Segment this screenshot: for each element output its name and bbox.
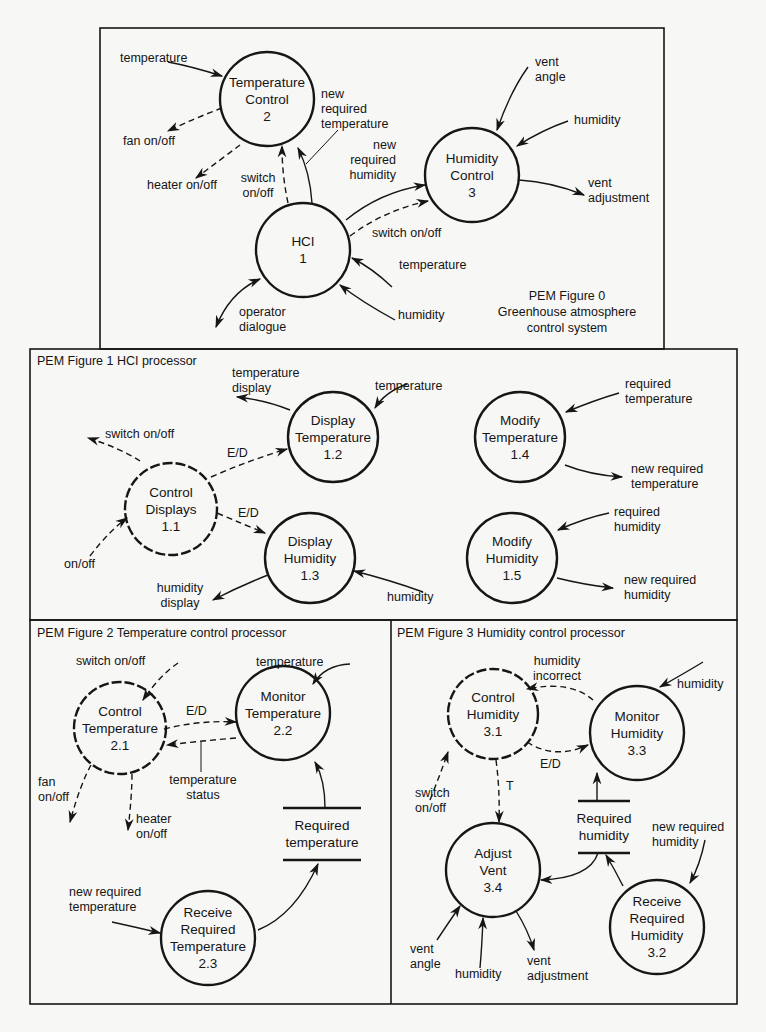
label-line: humidity [330, 168, 396, 183]
label-line: heater [136, 812, 171, 827]
node-name: Control [229, 91, 305, 108]
flow-label-vent-adjustment: vent adjustment [527, 954, 588, 984]
flow-label-new-required-temperature: new required temperature [321, 87, 388, 132]
node-display-temperature: Display Temperature 1.2 [295, 412, 371, 463]
label-line: on/off [241, 186, 276, 201]
flow-label-switch: switch on/off [105, 427, 174, 442]
node-name: Control [467, 689, 520, 706]
node-name: Monitor [611, 708, 664, 725]
label-line: required [625, 377, 692, 392]
label-line: new [330, 138, 396, 153]
node-control-humidity: Control Humidity 3.1 [467, 689, 520, 740]
node-number: 2 [229, 108, 305, 125]
flow-label-required-humidity: required humidity [614, 505, 661, 535]
label-line: on/off [38, 790, 69, 805]
node-name: Control [145, 484, 196, 501]
flow-label-ed-2: E/D [238, 506, 259, 521]
flow-label-humidity-hc: humidity [574, 113, 621, 128]
node-name: Temperature [229, 74, 305, 91]
label-line: angle [410, 957, 441, 972]
node-name: Temperature [295, 429, 371, 446]
flow-label-switch: switch on/off [415, 786, 450, 816]
figure-0-caption: PEM Figure 0 Greenhouse atmosphere contr… [498, 288, 636, 336]
flow-label-switch-hc: switch on/off [372, 226, 441, 241]
node-number: 1.5 [486, 567, 539, 584]
node-name: Humidity [611, 725, 664, 742]
node-name: Humidity [486, 550, 539, 567]
label-line: humidity [652, 835, 724, 850]
flow-label-temperature: temperature [256, 655, 323, 670]
flow-label-heater: heater on/off [147, 178, 217, 193]
node-name: Humidity [467, 706, 520, 723]
flow-label-vent-angle: vent angle [535, 55, 566, 85]
label-line: required [321, 102, 388, 117]
flow-label-switch-tc: switch on/off [241, 171, 276, 201]
node-receive-required-temperature: Receive Required Temperature 2.3 [170, 904, 246, 972]
node-modify-humidity: Modify Humidity 1.5 [486, 533, 539, 584]
node-number: 3.3 [611, 742, 664, 759]
flow-label-humidity: humidity [387, 590, 434, 605]
node-number: 1.2 [295, 446, 371, 463]
label-line: status [169, 788, 236, 803]
label-line: temperature [169, 773, 236, 788]
node-number: 3.1 [467, 723, 520, 740]
caption-line: Greenhouse atmosphere [498, 304, 636, 320]
label-line: humidity [614, 520, 661, 535]
node-control-displays: Control Displays 1.1 [145, 484, 196, 535]
node-name: Control [82, 703, 158, 720]
label-line: temperature [625, 392, 692, 407]
figure-2-title: PEM Figure 2 Temperature control process… [37, 626, 286, 640]
node-name: Temperature [82, 720, 158, 737]
node-name: Temperature [245, 705, 321, 722]
label-line: vent [535, 55, 566, 70]
label-line: temperature [69, 900, 141, 915]
label-line: angle [535, 70, 566, 85]
node-number: 2.2 [245, 722, 321, 739]
label-line: on/off [415, 801, 450, 816]
node-name: Humidity [630, 927, 685, 944]
node-control-temperature: Control Temperature 2.1 [82, 703, 158, 754]
node-adjust-vent: Adjust Vent 3.4 [474, 845, 512, 896]
label-line: display [157, 596, 204, 611]
label-line: vent [527, 954, 588, 969]
label-line: temperature [631, 477, 703, 492]
flow-label-ed: E/D [186, 704, 207, 719]
flow-label-switch: switch on/off [76, 654, 145, 669]
node-number: 3.2 [630, 944, 685, 961]
node-humidity-control: Humidity Control 3 [446, 150, 499, 201]
node-number: 3 [446, 184, 499, 201]
figure-1-title: PEM Figure 1 HCI processor [37, 354, 197, 368]
label-line: operator [239, 305, 286, 320]
node-name: Required [630, 910, 685, 927]
node-hci: HCI 1 [291, 233, 314, 267]
node-name: Receive [170, 904, 246, 921]
store-name: Required [286, 817, 359, 834]
flow-label-new-required-humidity: new required humidity [330, 138, 396, 183]
node-monitor-humidity: Monitor Humidity 3.3 [611, 708, 664, 759]
flow-label-new-required-temperature: new required temperature [69, 885, 141, 915]
node-number: 2.1 [82, 737, 158, 754]
flow-label-new-required-humidity: new required humidity [652, 820, 724, 850]
flow-label-temperature: temperature [375, 379, 442, 394]
flow-label-humidity-av: humidity [455, 967, 502, 982]
label-line: required [614, 505, 661, 520]
label-line: humidity [533, 654, 581, 669]
flow-label-operator-dialogue: operator dialogue [239, 305, 286, 335]
flow-label-humidity: humidity [677, 677, 724, 692]
store-name: humidity [577, 827, 632, 844]
label-line: new required [652, 820, 724, 835]
flow-label-on-off: on/off [64, 557, 95, 572]
flow-label-t: T [506, 779, 514, 794]
flow-label-ed: E/D [540, 757, 561, 772]
flow-label-humidity-hci: humidity [398, 308, 445, 323]
node-name: Display [295, 412, 371, 429]
node-number: 1.3 [284, 567, 337, 584]
label-line: new required [624, 573, 696, 588]
node-name: Receive [630, 893, 685, 910]
flow-label-humidity-display: humidity display [157, 581, 204, 611]
node-name: HCI [291, 233, 314, 250]
flow-label-ed-1: E/D [227, 446, 248, 461]
label-line: fan [38, 775, 69, 790]
node-monitor-temperature: Monitor Temperature 2.2 [245, 688, 321, 739]
node-name: Modify [482, 412, 558, 429]
